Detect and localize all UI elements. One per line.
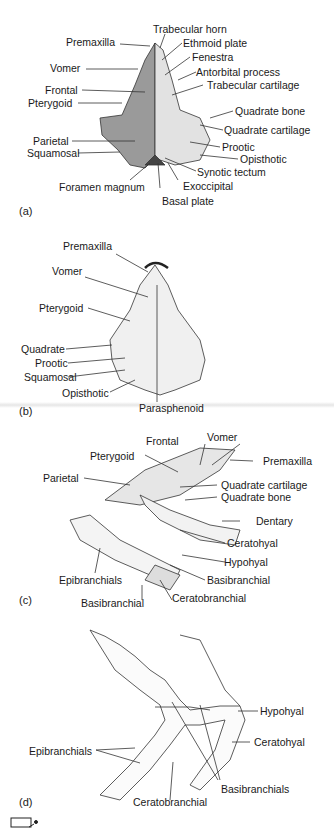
label-d-epibranchials: Epibranchials bbox=[29, 745, 92, 757]
label-d-ceratohyal: Ceratohyal bbox=[254, 736, 305, 748]
label-a-vomer: Vomer bbox=[50, 62, 80, 74]
label-c-frontal: Frontal bbox=[146, 435, 179, 447]
label-d-hypohyal: Hypohyal bbox=[260, 705, 304, 717]
label-a-ethmoid-plate: Ethmoid plate bbox=[183, 37, 247, 49]
label-d-basibranchials: Basibranchials bbox=[221, 783, 289, 795]
link-icon bbox=[11, 818, 38, 827]
label-a-prootic: Prootic bbox=[222, 141, 255, 153]
label-b-pterygoid: Pterygoid bbox=[39, 302, 83, 314]
label-c-epibranchials: Epibranchials bbox=[59, 574, 122, 586]
label-b-prootic: Prootic bbox=[35, 357, 68, 369]
label-c-basibranchial-right: Basibranchial bbox=[207, 574, 270, 586]
label-a-synotic-tectum: Synotic tectum bbox=[197, 166, 266, 178]
label-a-foramen-magnum: Foramen magnum bbox=[59, 181, 145, 193]
label-b-parasphenoid: Parasphenoid bbox=[139, 402, 204, 414]
label-a-quadrate-bone: Quadrate bone bbox=[235, 105, 305, 117]
label-a-pterygoid: Pterygoid bbox=[28, 97, 72, 109]
label-a-trabecular-horn: Trabecular horn bbox=[153, 23, 227, 35]
label-b-squamosal: Squamosal bbox=[24, 371, 77, 383]
panel-label-b: (b) bbox=[19, 405, 32, 417]
label-b-quadrate: Quadrate bbox=[21, 343, 65, 355]
label-c-quadrate-bone: Quadrate bone bbox=[221, 491, 291, 503]
label-b-opisthotic: Opisthotic bbox=[62, 387, 109, 399]
label-a-premaxilla: Premaxilla bbox=[66, 36, 115, 48]
label-c-ceratohyal: Ceratohyal bbox=[227, 537, 278, 549]
label-a-basal-plate: Basal plate bbox=[162, 195, 214, 207]
label-a-frontal: Frontal bbox=[45, 84, 78, 96]
label-c-dentary: Dentary bbox=[256, 515, 293, 527]
panel-label-d: (d) bbox=[19, 796, 32, 808]
label-a-trabecular-cartilage: Trabecular cartilage bbox=[207, 79, 299, 91]
label-a-squamosal: Squamosal bbox=[27, 147, 80, 159]
label-c-vomer: Vomer bbox=[207, 431, 237, 443]
label-b-vomer: Vomer bbox=[52, 265, 82, 277]
label-a-opisthotic: Opisthotic bbox=[240, 153, 287, 165]
label-c-premaxilla: Premaxilla bbox=[263, 455, 312, 467]
label-c-quadrate-cartilage: Quadrate cartilage bbox=[221, 479, 307, 491]
label-a-exoccipital: Exoccipital bbox=[183, 180, 233, 192]
label-c-parietal: Parietal bbox=[43, 472, 79, 484]
label-d-ceratobranchial: Ceratobranchial bbox=[133, 796, 207, 808]
panel-label-c: (c) bbox=[19, 594, 32, 606]
label-a-parietal: Parietal bbox=[33, 135, 69, 147]
panel-label-a: (a) bbox=[19, 205, 32, 217]
label-c-pterygoid: Pterygoid bbox=[90, 450, 134, 462]
label-c-hypohyal: Hypohyal bbox=[224, 556, 268, 568]
label-b-premaxilla: Premaxilla bbox=[63, 240, 112, 252]
label-c-ceratobranchial: Ceratobranchial bbox=[172, 592, 246, 604]
label-a-antorbital-process: Antorbital process bbox=[196, 66, 280, 78]
label-a-quadrate-cartilage: Quadrate cartilage bbox=[224, 124, 310, 136]
label-a-fenestra: Fenestra bbox=[192, 51, 233, 63]
label-c-basibranchial-left: Basibranchial bbox=[81, 597, 144, 609]
